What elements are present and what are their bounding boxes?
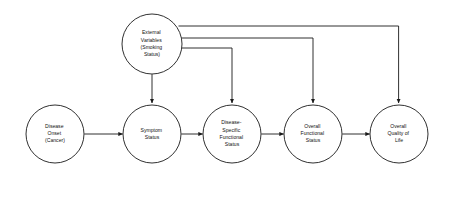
node-overall-functional-status[interactable]: Overall Functional Status bbox=[284, 105, 342, 163]
node-disease-specific-functional-status[interactable]: Disease- Specific Functional Status bbox=[203, 105, 261, 163]
node-label-disease-onset: Disease Onset (Cancer) bbox=[45, 123, 65, 143]
diagram-svg: External Variables (Smoking Status) Dise… bbox=[0, 0, 454, 207]
node-overall-quality-of-life[interactable]: Overall Quality of Life bbox=[370, 105, 428, 163]
node-symptom-status[interactable]: Symptom Status bbox=[123, 105, 181, 163]
node-disease-onset[interactable]: Disease Onset (Cancer) bbox=[26, 105, 84, 163]
node-external-variables[interactable]: External Variables (Smoking Status) bbox=[122, 14, 182, 74]
diagram-canvas: External Variables (Smoking Status) Dise… bbox=[0, 0, 454, 207]
node-label-external-variables: External Variables (Smoking Status) bbox=[141, 30, 164, 57]
edge-external-to-disease-specific bbox=[182, 48, 232, 103]
